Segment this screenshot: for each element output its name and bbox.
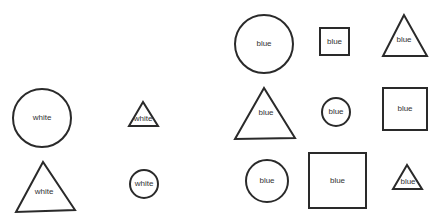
blue-square: blue	[309, 153, 366, 208]
shape-label: blue	[400, 177, 416, 186]
shapes-canvas: whitewhitewhitewhiteblueblueblueblueblue…	[0, 0, 443, 221]
shape-label: white	[133, 114, 153, 123]
shape-label: blue	[327, 37, 343, 46]
shape-label: blue	[397, 104, 413, 113]
shape-label: blue	[259, 176, 275, 185]
shape-label: white	[134, 179, 154, 188]
blue-triangle: blue	[393, 165, 422, 189]
shape-label: blue	[256, 39, 272, 48]
shape-label: blue	[258, 108, 274, 117]
blue-square: blue	[320, 28, 349, 55]
white-group: whitewhitewhitewhite	[13, 89, 158, 212]
blue-circle: blue	[322, 98, 350, 126]
blue-group: blueblueblueblueblueblueblueblueblue	[235, 15, 427, 208]
blue-triangle: blue	[235, 88, 295, 139]
shape-label: blue	[328, 107, 344, 116]
white-circle: white	[13, 89, 71, 147]
white-circle: white	[130, 170, 158, 198]
blue-square: blue	[383, 88, 427, 130]
blue-circle: blue	[246, 160, 288, 202]
shape-label: white	[32, 113, 52, 122]
shape-label: blue	[396, 35, 412, 44]
shape-label: blue	[330, 176, 346, 185]
white-triangle: white	[129, 102, 158, 126]
blue-triangle: blue	[383, 15, 427, 56]
shape-label: white	[34, 187, 54, 196]
blue-circle: blue	[235, 15, 293, 73]
white-triangle: white	[16, 162, 75, 212]
